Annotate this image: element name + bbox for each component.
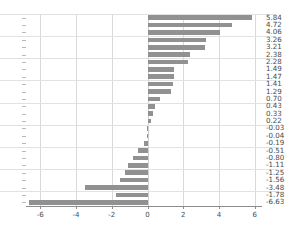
- bar-col[interactable]: [116, 193, 148, 198]
- y-tick-mark: [22, 62, 26, 63]
- bar-sur[interactable]: [148, 15, 252, 20]
- gridline-x-6: [255, 14, 256, 206]
- bar-brb[interactable]: [148, 30, 221, 35]
- bar-ecu[interactable]: [120, 178, 148, 183]
- x-tick-0: [148, 206, 149, 209]
- gridline-y: [0, 103, 276, 104]
- gridline-y: [0, 125, 276, 126]
- y-tick-mark: [22, 32, 26, 33]
- x-tick-label-4: 4: [207, 211, 231, 220]
- x-tick-label-6: 6: [243, 211, 267, 220]
- bar-hnd[interactable]: [148, 74, 174, 79]
- y-tick-mark: [22, 84, 26, 85]
- y-tick-mark: [22, 188, 26, 189]
- y-tick-mark: [22, 114, 26, 115]
- bar-dom[interactable]: [148, 89, 171, 94]
- gridline-x--4: [76, 14, 77, 206]
- x-tick-label-0: 0: [136, 211, 160, 220]
- x-tick--6: [40, 206, 41, 209]
- bar-per[interactable]: [85, 185, 147, 190]
- gridline-x-4: [219, 14, 220, 206]
- y-tick-mark: [22, 77, 26, 78]
- y-tick-mark: [22, 40, 26, 41]
- gridline-y: [0, 58, 276, 59]
- bar-slv[interactable]: [148, 119, 152, 124]
- gridline-x-2: [183, 14, 184, 206]
- y-tick-mark: [22, 128, 26, 129]
- plot-area: SUR5.84NIC4.72BRB4.06BOL3.26BLZ3.21HTI2.…: [26, 14, 262, 206]
- bar-bol[interactable]: [148, 38, 206, 43]
- gridline-x-0: [148, 14, 149, 206]
- y-tick-mark: [22, 180, 26, 181]
- horizontal-bar-chart: SUR5.84NIC4.72BRB4.06BOL3.26BLZ3.21HTI2.…: [0, 0, 302, 230]
- bar-bra[interactable]: [29, 200, 148, 205]
- y-tick-mark: [22, 121, 26, 122]
- x-tick-6: [255, 206, 256, 209]
- x-tick-4: [219, 206, 220, 209]
- bar-jam[interactable]: [133, 156, 147, 161]
- bar-cri[interactable]: [148, 60, 189, 65]
- y-tick-mark: [22, 143, 26, 144]
- y-tick-mark: [22, 158, 26, 159]
- gridline-y: [0, 36, 276, 37]
- x-tick-label--4: -4: [64, 211, 88, 220]
- y-tick-mark: [22, 136, 26, 137]
- y-tick-mark: [22, 151, 26, 152]
- y-tick-mark: [22, 92, 26, 93]
- y-tick-mark: [22, 202, 26, 203]
- gridline-y: [0, 80, 276, 81]
- x-tick-label-2: 2: [171, 211, 195, 220]
- x-tick-2: [183, 206, 184, 209]
- x-tick-label--6: -6: [28, 211, 52, 220]
- y-tick-mark: [22, 99, 26, 100]
- x-tick-label--2: -2: [100, 211, 124, 220]
- bar-nic[interactable]: [148, 23, 232, 28]
- bar-tto[interactable]: [148, 104, 156, 109]
- bar-hti[interactable]: [148, 52, 191, 57]
- value-label-bra: -6.63: [266, 198, 302, 206]
- y-tick-mark: [22, 69, 26, 70]
- gridline-x--6: [40, 14, 41, 206]
- bar-bhs[interactable]: [144, 141, 147, 146]
- bar-pry[interactable]: [125, 170, 147, 175]
- y-tick-mark: [22, 47, 26, 48]
- y-tick-mark: [22, 25, 26, 26]
- y-tick-mark: [22, 173, 26, 174]
- x-tick--2: [112, 206, 113, 209]
- bar-gtm[interactable]: [148, 97, 161, 102]
- bar-ven[interactable]: [148, 67, 175, 72]
- bar-ury[interactable]: [147, 126, 148, 131]
- bar-arg[interactable]: [138, 148, 147, 153]
- y-tick-mark: [22, 18, 26, 19]
- x-axis-line: [26, 206, 262, 207]
- y-tick-mark: [22, 195, 26, 196]
- bar-blz[interactable]: [148, 45, 205, 50]
- bar-pan[interactable]: [148, 111, 154, 116]
- y-tick-mark: [22, 55, 26, 56]
- chart-title: [0, 0, 302, 7]
- bar-mex[interactable]: [147, 134, 148, 139]
- bar-guy[interactable]: [128, 163, 148, 168]
- bar-chl[interactable]: [148, 82, 173, 87]
- x-tick--4: [76, 206, 77, 209]
- y-tick-mark: [22, 165, 26, 166]
- gridline-x--2: [112, 14, 113, 206]
- y-tick-mark: [22, 106, 26, 107]
